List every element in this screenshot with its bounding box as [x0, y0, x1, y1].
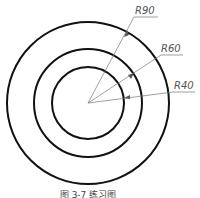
label-r40: R40: [174, 80, 194, 91]
concentric-circles-drawing: R90 R60 R40: [0, 0, 200, 198]
label-r90: R90: [135, 5, 155, 16]
dimension-r90: R90: [88, 5, 158, 103]
label-r60: R60: [161, 43, 181, 54]
figure-caption: 图 3-7 练习图: [0, 188, 176, 198]
